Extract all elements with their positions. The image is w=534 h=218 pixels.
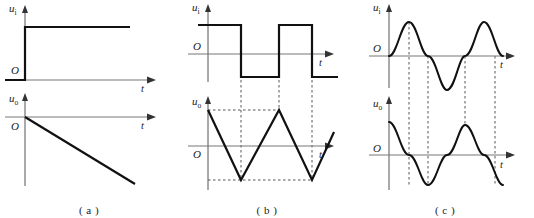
y-axis-label: ui [373, 1, 381, 16]
x-axis-label: t [141, 120, 145, 131]
x-axis-label: t [141, 83, 145, 94]
panel-b-plots: ui O t uo O t [178, 0, 356, 196]
plot-c-output: uo O t [369, 96, 515, 190]
plot-a-input: ui O t [5, 2, 156, 94]
y-axis-arrow-icon [205, 4, 211, 12]
origin-label: O [193, 148, 201, 160]
x-axis-label: t [319, 57, 323, 68]
y-axis-label: ui [9, 2, 17, 17]
y-axis-arrow-icon [22, 93, 28, 101]
y-axis-subscript: i [15, 8, 17, 17]
plot-b-input: ui O t [188, 1, 338, 82]
square-waveform [198, 25, 338, 77]
origin-label: O [373, 142, 381, 154]
y-axis-label: uo [9, 92, 19, 107]
sine-shifted-waveform [389, 122, 503, 185]
triangle-waveform [208, 110, 334, 180]
y-axis-arrow-icon [386, 4, 392, 12]
plot-a-output: uo O t [5, 92, 156, 186]
y-axis-subscript: i [198, 7, 200, 16]
waveform-figure: ui O t uo O t ( a ) [0, 0, 534, 218]
panel-caption: ( c ) [356, 204, 534, 216]
y-axis-subscript: o [15, 98, 19, 107]
x-axis-arrow-icon [325, 51, 334, 58]
y-axis-arrow-icon [22, 5, 28, 13]
panel-a: ui O t uo O t ( a ) [0, 0, 178, 218]
x-axis-arrow-icon [506, 53, 515, 60]
step-waveform [5, 27, 130, 80]
panel-c-plots: ui O t uo O t [356, 0, 534, 196]
origin-label: O [193, 40, 201, 52]
x-axis-arrow-icon [147, 114, 156, 121]
y-axis-subscript: i [379, 7, 381, 16]
y-axis-subscript: o [198, 101, 202, 110]
origin-label: O [11, 64, 19, 76]
y-axis-label: uo [373, 97, 383, 112]
y-axis-subscript: o [379, 103, 383, 112]
y-axis-label: uo [192, 95, 202, 110]
x-axis-arrow-icon [147, 77, 156, 84]
panel-c: ui O t uo O t ( c ) [356, 0, 534, 218]
origin-label: O [11, 120, 19, 132]
panel-caption: ( b ) [178, 204, 356, 216]
panel-b: ui O t uo O t ( b ) [178, 0, 356, 218]
origin-label: O [373, 42, 381, 54]
x-axis-label: t [500, 59, 504, 70]
x-axis-arrow-icon [506, 152, 515, 159]
x-axis-label: t [500, 159, 504, 170]
panel-caption: ( a ) [0, 204, 178, 216]
ramp-waveform [25, 117, 135, 184]
plot-c-input: ui O t [369, 1, 515, 90]
y-axis-arrow-icon [386, 96, 392, 104]
panel-a-plots: ui O t uo O t [0, 0, 178, 196]
y-axis-label: ui [192, 1, 200, 16]
y-axis-arrow-icon [205, 96, 211, 104]
